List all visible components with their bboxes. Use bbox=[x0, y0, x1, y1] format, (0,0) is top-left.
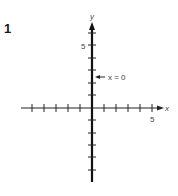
coordinate-plane: y x 5 5 x = 0 bbox=[0, 0, 178, 196]
annotation-x-equals-0: x = 0 bbox=[108, 73, 126, 82]
annotation-arrow-icon bbox=[95, 75, 100, 79]
y-axis-label: y bbox=[89, 12, 95, 21]
x-tick-label-5: 5 bbox=[150, 115, 155, 124]
y-tick-label-5: 5 bbox=[81, 42, 86, 51]
x-axis-label: x bbox=[164, 104, 170, 113]
x-axis-arrow-icon bbox=[157, 106, 164, 111]
y-axis-arrow-icon bbox=[89, 22, 95, 30]
